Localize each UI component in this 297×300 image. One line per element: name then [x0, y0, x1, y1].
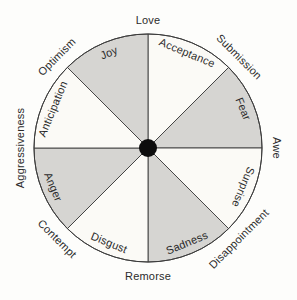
- dyad-label-remorse: Remorse: [125, 271, 171, 282]
- emotion-wheel-figure: AcceptanceFearSurpriseSadnessDisgustAnge…: [0, 0, 297, 300]
- dyad-label-love: Love: [136, 15, 161, 26]
- emotion-wheel: [0, 0, 297, 300]
- dyad-label-awe: Awe: [271, 137, 282, 159]
- dyad-label-aggressiveness: Aggressiveness: [15, 108, 26, 188]
- center-dot: [139, 139, 157, 157]
